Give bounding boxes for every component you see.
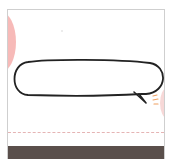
speech-bubble-icon: [8, 10, 165, 159]
illustration-card: [7, 9, 165, 159]
dashed-divider: [8, 132, 164, 133]
bottom-bar: [8, 146, 164, 159]
accent-strokes-icon: [153, 95, 158, 104]
